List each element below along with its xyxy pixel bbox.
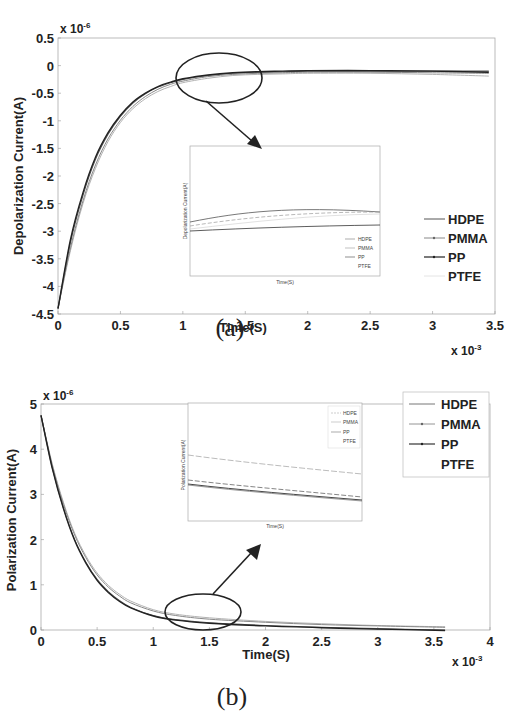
y-tick-label: 0 (30, 623, 37, 638)
y-tick-label: 2 (30, 533, 37, 548)
y-multiplier-b: x 10-6 (43, 388, 74, 403)
x-tick-label: 1.5 (200, 634, 218, 649)
caption-a: (a) (216, 313, 245, 342)
x-tick-label: 2.5 (361, 318, 379, 333)
y-axis-label-a: Depolarization Current(A) (11, 97, 26, 255)
x-axis-label-b: Time(S) (242, 647, 289, 662)
caption-b: (b) (217, 682, 247, 711)
legend-ptfe-a: PTFE (448, 269, 482, 284)
legend-hdpe-b: HDPE (441, 397, 477, 412)
x-tick-label: 3.5 (425, 634, 443, 649)
x-tick-label: 2 (304, 318, 311, 333)
panel-b-polarization-chart: 543210 00.511.522.533.54 x 10-6 x 10-3 T… (4, 388, 494, 711)
arrow-head-b (246, 544, 261, 560)
y-axis-ticks-a: 0.50-0.5-1-1.5-2-2.5-3-3.5-4-4.5 (32, 31, 61, 322)
y-tick-label: -0.5 (32, 86, 54, 101)
legend-pmma-b: PMMA (441, 417, 481, 432)
inset-a: Depolarization Current(A) Time(S) HDPE P… (182, 146, 380, 285)
inset-legend-ptfe-a: PTFE (358, 263, 371, 269)
y-axis-ticks-b: 543210 (30, 397, 44, 638)
legend-b: HDPE PMMA PP PTFE (403, 392, 489, 477)
inset-legend-pmma-b: PMMA (343, 419, 359, 425)
legend-pp-b: PP (441, 437, 459, 452)
inset-legend-pp-a: PP (358, 254, 365, 260)
y-tick-label: -1 (42, 114, 54, 129)
inset-b: Polarization Current(A) Time(S) HDPE PMM… (180, 403, 362, 529)
highlight-ellipse-b (165, 594, 241, 630)
inset-frame-a (190, 146, 380, 276)
inset-legend-pp-b: PP (343, 429, 350, 435)
legend-pp-a: PP (448, 250, 466, 265)
legend-hdpe-a: HDPE (448, 212, 484, 227)
arrow-shaft-b (213, 552, 252, 594)
inset-legend-hdpe-a: HDPE (358, 236, 373, 242)
legend-a: HDPE PMMA PP PTFE (424, 212, 488, 284)
y-tick-label: -2 (42, 169, 54, 184)
y-tick-label: 1 (30, 578, 37, 593)
inset-y-label-a: Depolarization Current(A) (182, 182, 188, 239)
legend-ptfe-b: PTFE (441, 457, 475, 472)
figure: 0.50-0.5-1-1.5-2-2.5-3-3.5-4-4.5 00.511.… (0, 0, 512, 725)
legend-pmma-a: PMMA (448, 231, 488, 246)
y-tick-label: -1.5 (32, 141, 54, 156)
x-tick-label: 0.5 (111, 318, 129, 333)
y-tick-label: 4 (30, 442, 38, 457)
x-tick-label: 0 (37, 634, 44, 649)
y-tick-label: -3 (42, 224, 54, 239)
y-tick-label: 0 (47, 59, 54, 74)
inset-legend-pmma-a: PMMA (358, 245, 374, 251)
y-tick-label: 3 (30, 487, 37, 502)
inset-legend-ptfe-b: PTFE (343, 438, 356, 444)
y-tick-label: -4 (42, 279, 54, 294)
y-tick-label: -3.5 (32, 252, 54, 267)
inset-x-label-b: Time(S) (266, 523, 284, 529)
x-tick-label: 4 (486, 634, 494, 649)
x-multiplier-a: x 10-3 (451, 343, 482, 358)
inset-legend-hdpe-b: HDPE (343, 410, 358, 416)
panel-a-depolarization-chart: 0.50-0.5-1-1.5-2-2.5-3-3.5-4-4.5 00.511.… (11, 21, 504, 358)
inset-legend-b: HDPE PMMA PP PTFE (328, 406, 360, 448)
y-tick-label: 0.5 (36, 31, 54, 46)
x-tick-label: 0.5 (88, 634, 106, 649)
y-axis-label-b: Polarization Current(A) (4, 449, 19, 591)
y-tick-label: -4.5 (32, 307, 54, 322)
x-tick-label: 1 (150, 634, 157, 649)
x-tick-label: 3 (429, 318, 436, 333)
x-tick-label: 2.5 (313, 634, 331, 649)
y-multiplier-a: x 10-6 (60, 21, 91, 36)
arrow-shaft-a (206, 101, 252, 141)
x-tick-label: 3.5 (486, 318, 504, 333)
x-multiplier-b: x 10-3 (452, 654, 483, 669)
x-tick-label: 1 (179, 318, 186, 333)
y-tick-label: -2.5 (32, 197, 54, 212)
inset-y-label-b: Polarization Current(A) (180, 439, 186, 490)
inset-x-label-a: Time(S) (276, 279, 294, 285)
x-tick-label: 3 (374, 634, 381, 649)
x-tick-label: 0 (54, 318, 61, 333)
y-tick-label: 5 (30, 397, 37, 412)
